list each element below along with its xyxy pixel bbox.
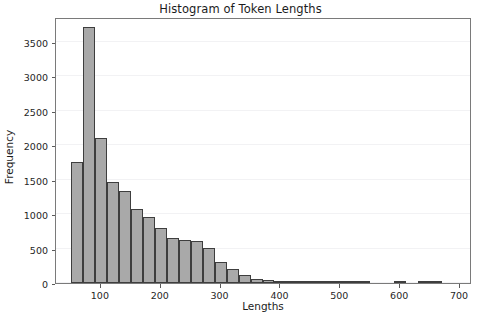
histogram-bar xyxy=(203,248,215,283)
y-tick-label: 0 xyxy=(3,279,48,290)
histogram-figure: Histogram of Token Lengths 0500100015002… xyxy=(0,0,481,320)
histogram-bar xyxy=(227,269,239,283)
y-tick-mark xyxy=(52,181,56,182)
x-tick-mark xyxy=(220,284,221,288)
y-tick-mark xyxy=(52,112,56,113)
histogram-bar xyxy=(71,162,83,283)
y-tick-label: 3000 xyxy=(3,72,48,83)
x-tick-mark xyxy=(279,284,280,288)
histogram-bar xyxy=(346,281,358,283)
y-tick-mark xyxy=(52,77,56,78)
histogram-bar xyxy=(322,281,334,283)
histogram-bar xyxy=(251,279,263,283)
y-tick-mark xyxy=(52,284,56,285)
x-tick-mark xyxy=(459,284,460,288)
histogram-bar xyxy=(430,281,442,283)
x-tick-mark xyxy=(100,284,101,288)
y-tick-mark xyxy=(52,250,56,251)
histogram-bar xyxy=(239,275,251,283)
x-tick-mark xyxy=(399,284,400,288)
histogram-bar xyxy=(119,191,131,283)
plot-area xyxy=(55,18,471,284)
histogram-bar xyxy=(298,281,310,283)
histogram-bar xyxy=(358,281,370,283)
page-title: Histogram of Token Lengths xyxy=(0,2,481,16)
y-tick-mark xyxy=(52,146,56,147)
histogram-bar xyxy=(310,281,322,283)
histogram-bar xyxy=(131,209,143,283)
x-tick-mark xyxy=(339,284,340,288)
histogram-bar xyxy=(418,281,430,283)
y-tick-mark xyxy=(52,215,56,216)
histogram-bars xyxy=(56,19,470,283)
histogram-bar xyxy=(95,138,107,283)
histogram-bar xyxy=(191,241,203,283)
histogram-bar xyxy=(155,228,167,283)
histogram-bar xyxy=(263,280,275,283)
histogram-bar xyxy=(179,240,191,283)
histogram-bar xyxy=(274,281,286,283)
histogram-bar xyxy=(286,281,298,283)
histogram-bar xyxy=(334,281,346,283)
histogram-bar xyxy=(215,262,227,283)
histogram-bar xyxy=(394,281,406,283)
x-axis-label: Lengths xyxy=(55,300,471,312)
histogram-bar xyxy=(167,238,179,283)
y-tick-mark xyxy=(52,43,56,44)
y-tick-label: 3500 xyxy=(3,37,48,48)
histogram-bar xyxy=(143,217,155,283)
y-tick-label: 500 xyxy=(3,244,48,255)
histogram-bar xyxy=(83,27,95,283)
y-axis-label: Frequency xyxy=(3,97,15,217)
histogram-bar xyxy=(107,182,119,283)
x-tick-mark xyxy=(160,284,161,288)
